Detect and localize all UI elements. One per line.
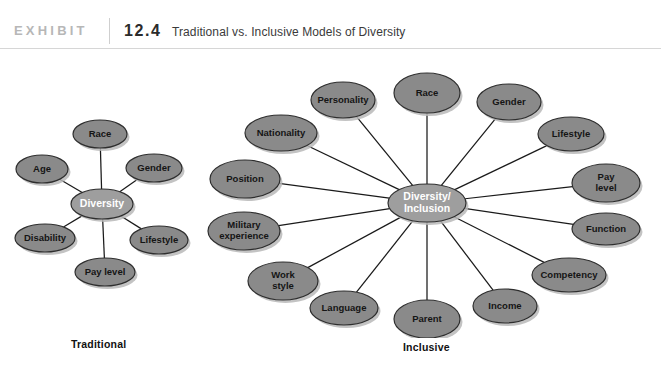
node-nationality[interactable]: Nationality [245, 115, 320, 154]
node-label: Inclusion [404, 202, 450, 214]
inclusive-diversity-model: RaceGenderLifestylePaylevelFunctionCompe… [208, 73, 643, 338]
node-position[interactable]: Position [210, 160, 283, 201]
node-label: Gender [492, 96, 526, 107]
node-age[interactable]: Age [16, 155, 71, 186]
node-label: Position [226, 173, 264, 184]
diagram-area: RaceGenderLifestylePay levelDisabilityAg… [0, 50, 661, 338]
connector-income [441, 221, 494, 290]
node-lifestyle[interactable]: Lifestyle [538, 117, 607, 154]
connector-position [279, 183, 389, 198]
connector-military-experience [279, 209, 390, 226]
node-label: Lifestyle [140, 234, 179, 245]
node-label: Work [271, 269, 295, 280]
connector-pay-level [103, 219, 105, 258]
node-function[interactable]: Function [572, 213, 643, 248]
node-label: style [272, 280, 294, 291]
exhibit-word: EXHIBIT [14, 24, 88, 38]
node-race[interactable]: Race [394, 73, 463, 116]
exhibit-number: 12.4 [124, 22, 162, 40]
node-label: Race [416, 87, 439, 98]
node-disability[interactable]: Disability [15, 224, 78, 255]
connector-disability [63, 216, 82, 227]
connector-gender [120, 179, 138, 191]
node-label: experience [219, 230, 269, 241]
node-military-experience[interactable]: Militaryexperience [208, 212, 283, 253]
node-gender[interactable]: Gender [126, 154, 185, 185]
node-language[interactable]: Language [310, 291, 381, 328]
connector-language [357, 221, 413, 292]
hub-node-diversity-inclusion[interactable]: Diversity/Inclusion [388, 184, 469, 225]
connector-work-style [308, 217, 401, 267]
node-label: Age [33, 163, 51, 174]
node-income[interactable]: Income [473, 289, 540, 326]
connector-pay-level [465, 187, 573, 199]
node-label: Personality [317, 94, 369, 105]
node-lifestyle[interactable]: Lifestyle [130, 226, 191, 257]
traditional-diversity-model: RaceGenderLifestylePay levelDisabilityAg… [15, 120, 191, 289]
node-label: Competency [540, 269, 598, 280]
node-work-style[interactable]: Workstyle [248, 262, 321, 303]
connector-function [464, 208, 573, 224]
header-divider [109, 18, 110, 44]
node-label: Pay level [85, 266, 126, 277]
node-race[interactable]: Race [73, 120, 130, 151]
caption-inclusive: Inclusive [403, 341, 450, 353]
node-gender[interactable]: Gender [477, 84, 544, 123]
node-label: Disability [24, 232, 67, 243]
caption-traditional: Traditional [71, 338, 126, 350]
node-pay-level[interactable]: Paylevel [572, 164, 643, 205]
node-label: Parent [412, 313, 442, 324]
node-label: Pay [598, 171, 616, 182]
node-label: Nationality [257, 127, 306, 138]
node-label: Diversity/ [403, 190, 450, 202]
node-parent[interactable]: Parent [394, 300, 463, 338]
node-label: Lifestyle [552, 128, 591, 139]
exhibit-title: Traditional vs. Inclusive Models of Dive… [172, 25, 405, 39]
header-rule [0, 48, 661, 49]
node-competency[interactable]: Competency [532, 258, 609, 295]
connector-race [100, 148, 101, 189]
node-label: Diversity [80, 197, 125, 209]
node-pay-level[interactable]: Pay level [75, 258, 138, 289]
exhibit-header: EXHIBIT 12.4 Traditional vs. Inclusive M… [0, 0, 661, 50]
node-label: Race [89, 128, 112, 139]
node-label: Gender [137, 162, 171, 173]
diversity-models-diagram: RaceGenderLifestylePay levelDisabilityAg… [0, 50, 661, 338]
node-label: Military [227, 219, 261, 230]
node-label: Income [488, 300, 521, 311]
node-personality[interactable]: Personality [311, 82, 378, 121]
node-label: Language [322, 302, 367, 313]
node-label: level [595, 182, 616, 193]
node-label: Function [586, 223, 626, 234]
connector-personality [356, 116, 412, 185]
connector-gender [441, 118, 495, 185]
